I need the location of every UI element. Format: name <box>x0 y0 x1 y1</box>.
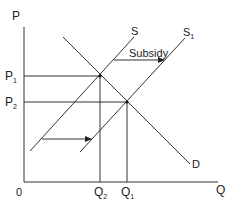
y-axis-label: P <box>12 9 20 23</box>
x-axis-label: Q <box>216 183 225 197</box>
supply-original-label: S <box>131 25 138 37</box>
supply-shifted-label: S1 <box>183 26 194 40</box>
q2-label: Q2 <box>94 185 107 200</box>
subsidy-label: Subsidy <box>129 47 169 59</box>
q1-label: Q1 <box>121 185 134 200</box>
p1-label: P1 <box>5 69 17 84</box>
equilibrium-point-original <box>98 74 101 77</box>
p2-label: P2 <box>5 95 17 110</box>
equilibrium-point-new <box>125 100 128 103</box>
supply-demand-diagram: P Q 0 D S S1 Subsidy P1 P2 Q2 Q1 <box>0 0 230 207</box>
demand-label: D <box>192 158 200 170</box>
origin-label: 0 <box>16 186 22 198</box>
supply-curve-original <box>30 37 134 151</box>
